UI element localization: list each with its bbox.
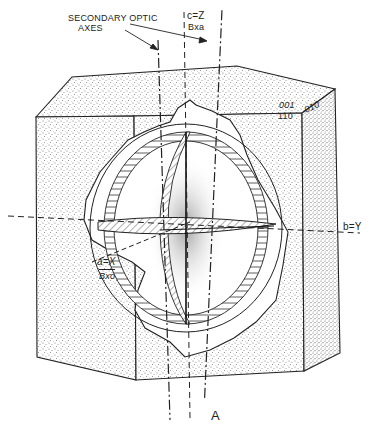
label-a-axis-bxo: Bxo — [99, 269, 115, 281]
label-secondary-optic-axes-1: SECONDARY OPTIC — [68, 13, 158, 23]
label-a-axis: a=X — [97, 257, 116, 267]
label-face-110: 110 — [278, 111, 293, 121]
figure-label-a: A — [211, 411, 220, 421]
label-secondary-optic-axes-2: AXES — [78, 23, 103, 33]
label-c-axis-bxa: Bxa — [188, 22, 204, 32]
label-c-axis: c=Z — [187, 11, 205, 21]
crystal-optic-diagram — [0, 0, 380, 433]
label-b-axis: b=Y — [343, 222, 362, 232]
label-face-001: 001 — [279, 100, 295, 110]
